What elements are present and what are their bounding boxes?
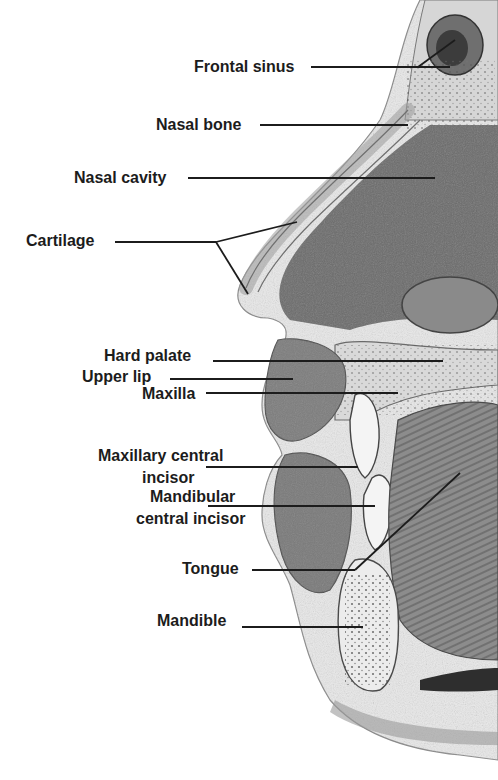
label-line2: central incisor xyxy=(136,508,245,530)
label-hard-palate: Hard palate xyxy=(104,347,191,365)
label-mandible: Mandible xyxy=(157,612,226,630)
label-upper-lip: Upper lip xyxy=(82,368,151,386)
label-frontal-sinus: Frontal sinus xyxy=(194,58,294,76)
label-line1: Maxillary central xyxy=(98,445,223,467)
anatomy-diagram: Frontal sinus Nasal bone Nasal cavity Ca… xyxy=(0,0,498,780)
label-nasal-cavity: Nasal cavity xyxy=(74,169,167,187)
label-nasal-bone: Nasal bone xyxy=(156,116,241,134)
label-maxillary-central-incisor: Maxillary central incisor xyxy=(98,445,223,489)
label-cartilage: Cartilage xyxy=(26,232,94,250)
label-tongue: Tongue xyxy=(182,560,239,578)
label-mandibular-central-incisor: Mandibular central incisor xyxy=(136,486,245,530)
label-maxilla: Maxilla xyxy=(142,385,195,403)
head-sagittal-illustration xyxy=(0,0,498,780)
leader-cartilage-b xyxy=(216,242,248,294)
label-line1: Mandibular xyxy=(136,486,245,508)
